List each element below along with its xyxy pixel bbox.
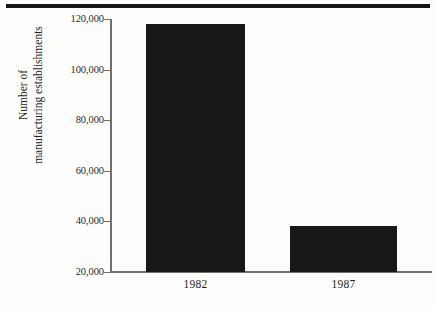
x-category-label-1982: 1982 <box>146 278 245 291</box>
plot-area: Number of manufacturing establishments 1… <box>0 0 435 310</box>
y-axis-line <box>110 19 112 273</box>
y-tick-label-20000: 20,000 <box>40 267 104 277</box>
y-tick-mark-100000 <box>104 70 111 71</box>
y-tick-label-120000: 120,000 <box>40 14 104 24</box>
y-tick-mark-20000 <box>104 272 111 273</box>
y-tick-mark-60000 <box>104 171 111 172</box>
y-tick-mark-120000 <box>104 19 111 20</box>
y-tick-mark-80000 <box>104 120 111 121</box>
y-tick-mark-40000 <box>104 221 111 222</box>
y-tick-label-40000: 40,000 <box>40 216 104 226</box>
y-tick-label-80000: 80,000 <box>40 115 104 125</box>
y-axis-title-line-1: Number of <box>16 0 31 195</box>
bar-1987[interactable] <box>290 226 397 272</box>
x-category-label-1987: 1987 <box>290 278 397 291</box>
bar-1982[interactable] <box>146 24 245 272</box>
y-tick-label-60000: 60,000 <box>40 166 104 176</box>
y-tick-label-100000: 100,000 <box>40 65 104 75</box>
bar-chart-figure: Number of manufacturing establishments 1… <box>0 0 435 310</box>
